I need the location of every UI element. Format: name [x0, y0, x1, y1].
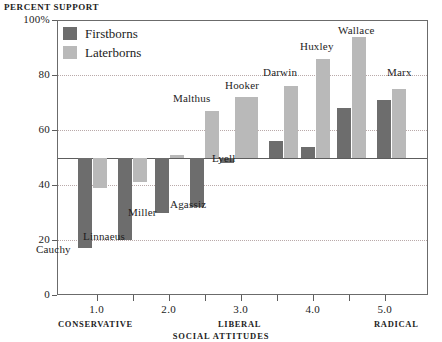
legend-item-firstborns: Firstborns	[63, 24, 141, 43]
bar-marx-firstborns	[377, 100, 391, 158]
bar-marx-laterborns	[392, 89, 406, 158]
bar-hooker-laterborns	[244, 97, 258, 158]
bar-label-marx: Marx	[387, 66, 412, 78]
x-axis-title: SOCIAL ATTITUDES	[0, 331, 442, 341]
bar-label-malthus: Malthus	[173, 92, 210, 104]
bar-label-linnaeus: Linnaeus	[83, 230, 125, 242]
bar-cauchy-laterborns	[93, 158, 107, 188]
bar-linnaeus-laterborns	[133, 158, 147, 183]
bar-miller-firstborns	[155, 158, 169, 213]
x-tick-label-1.0: 1.0	[89, 303, 104, 315]
y-tick-label-0: 0	[0, 288, 50, 300]
bar-linnaeus-firstborns	[118, 158, 132, 241]
x-tick-label-5.0: 5.0	[377, 303, 392, 315]
x-tick-2	[169, 295, 170, 301]
x-tick-5	[385, 295, 386, 301]
x-tick-3	[241, 295, 242, 301]
bar-miller-laterborns	[170, 155, 184, 158]
x-tick-3.5	[277, 295, 278, 301]
bar-wallace-laterborns	[352, 37, 366, 158]
legend-item-laterborns: Laterborns	[63, 43, 141, 62]
bar-darwin-firstborns	[269, 141, 283, 158]
bar-agassiz-laterborns	[205, 111, 219, 158]
bar-wallace-firstborns	[337, 108, 351, 158]
x-tick-label-4.0: 4.0	[305, 303, 320, 315]
bar-label-hooker: Hooker	[225, 79, 259, 91]
chart-container: PERCENT SUPPORT 100%806040200 CauchyLinn…	[0, 0, 442, 342]
bar-label-wallace: Wallace	[338, 24, 375, 36]
legend-swatch-laterborns	[63, 46, 77, 59]
y-tick-0	[52, 295, 57, 296]
x-tick-label-3.0: 3.0	[233, 303, 248, 315]
bar-label-darwin: Darwin	[263, 66, 297, 78]
y-tick-label-60: 60	[0, 123, 50, 135]
bar-label-huxley: Huxley	[300, 40, 334, 52]
chart-title: PERCENT SUPPORT	[4, 2, 99, 12]
legend-label-laterborns: Laterborns	[85, 45, 141, 61]
x-end-label-conservative: CONSERVATIVE	[58, 319, 133, 329]
x-tick-1	[97, 295, 98, 301]
x-tick-label-2.0: 2.0	[161, 303, 176, 315]
x-end-label-radical: RADICAL	[374, 319, 419, 329]
bar-label-cauchy: Cauchy	[36, 243, 71, 255]
y-tick-label-100: 100%	[0, 13, 50, 25]
legend: Firstborns Laterborns	[63, 24, 141, 62]
x-tick-4	[313, 295, 314, 301]
y-tick-label-80: 80	[0, 68, 50, 80]
bar-label-agassiz: Agassiz	[170, 198, 206, 210]
bar-darwin-laterborns	[284, 86, 298, 158]
bar-label-lyell: Lyell	[212, 152, 236, 164]
y-tick-label-40: 40	[0, 178, 50, 190]
bar-huxley-firstborns	[301, 147, 315, 158]
legend-swatch-firstborns	[63, 27, 77, 40]
bar-huxley-laterborns	[316, 59, 330, 158]
legend-label-firstborns: Firstborns	[85, 26, 138, 42]
bar-label-miller: Miller	[128, 206, 157, 218]
x-tick-4.5	[349, 295, 350, 301]
x-tick-2.5	[205, 295, 206, 301]
x-end-label-liberal: LIBERAL	[218, 319, 261, 329]
x-tick-1.5	[133, 295, 134, 301]
